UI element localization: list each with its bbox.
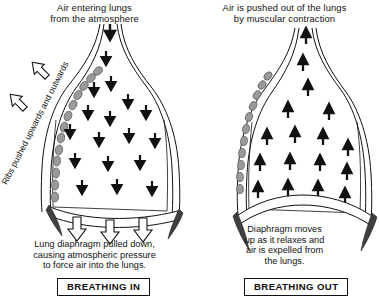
panel-breathing-out: Air is pushed out of the lungs by muscul… xyxy=(190,0,379,304)
caption-line-4: the lungs. xyxy=(190,256,379,267)
caption-breathing-in: Lung diaphragm pulled down, causing atmo… xyxy=(0,239,189,271)
caption-line-1: Diaphragm moves xyxy=(190,224,379,235)
air-flow-arrows-up xyxy=(254,28,353,204)
caption-line-3: air is expelled from xyxy=(190,245,379,256)
panel-breathing-in: Air entering lungs from the atmosphere xyxy=(0,0,189,304)
tag-breathing-in: BREATHING IN xyxy=(57,278,150,296)
caption-breathing-out: Diaphragm moves up as it relaxes and air… xyxy=(190,224,379,266)
caption-line-2: up as it relaxes and xyxy=(190,235,379,246)
diaphragm-band-up xyxy=(237,195,372,226)
caption-line-1: Lung diaphragm pulled down, xyxy=(0,239,189,250)
caption-line-3: to force air into the lungs. xyxy=(0,260,189,271)
caption-line-2: causing atmospheric pressure xyxy=(0,250,189,261)
tag-breathing-out: BREATHING OUT xyxy=(244,278,348,296)
air-flow-arrows-down xyxy=(66,24,160,195)
